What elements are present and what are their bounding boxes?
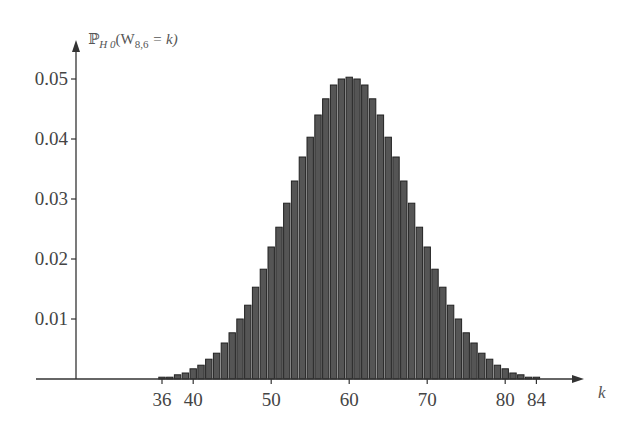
- bar: [416, 227, 422, 379]
- bar: [182, 373, 188, 379]
- bar: [190, 369, 196, 379]
- bar: [346, 77, 352, 379]
- bar: [447, 305, 453, 379]
- x-tick-label: 70: [418, 389, 437, 410]
- bar: [377, 115, 383, 379]
- y-tick-label: 0.02: [35, 248, 68, 269]
- bar: [268, 247, 274, 379]
- bar: [463, 333, 469, 379]
- bar: [393, 157, 399, 379]
- x-tick-label: 60: [340, 389, 359, 410]
- x-tick-label: 80: [496, 389, 515, 410]
- chart-container: 0.010.020.030.040.0536405060708084 ℙH 0(…: [0, 0, 634, 426]
- bar: [440, 287, 446, 379]
- bar: [354, 79, 360, 379]
- bar: [299, 157, 305, 379]
- x-axis-arrow-icon: [572, 375, 584, 383]
- bar: [401, 181, 407, 379]
- bar: [315, 115, 321, 379]
- bar: [284, 203, 290, 379]
- bar: [471, 343, 477, 379]
- x-tick-label: 84: [527, 389, 547, 410]
- x-tick-label: 50: [262, 389, 281, 410]
- bar: [385, 137, 391, 379]
- bar-chart: 0.010.020.030.040.0536405060708084: [0, 0, 634, 426]
- bar: [245, 305, 251, 379]
- bar: [276, 227, 282, 379]
- y-tick-label: 0.01: [35, 308, 68, 329]
- bar: [455, 319, 461, 379]
- bar: [206, 359, 212, 379]
- bar: [260, 269, 266, 379]
- bar: [252, 287, 258, 379]
- bar: [330, 85, 336, 379]
- bar: [510, 373, 516, 379]
- y-axis-label: ℙH 0(W8,6 = k): [88, 30, 178, 50]
- x-tick-label: 36: [153, 389, 172, 410]
- bar: [369, 99, 375, 379]
- bar: [362, 85, 368, 379]
- bar: [424, 247, 430, 379]
- bar: [479, 353, 485, 379]
- bar: [494, 365, 500, 379]
- bar: [291, 181, 297, 379]
- bar: [198, 365, 204, 379]
- bar: [338, 79, 344, 379]
- bar: [432, 269, 438, 379]
- y-tick-label: 0.03: [35, 188, 68, 209]
- bar: [486, 359, 492, 379]
- y-tick-label: 0.04: [35, 128, 69, 149]
- bar: [213, 353, 219, 379]
- y-tick-label: 0.05: [35, 68, 68, 89]
- bar: [229, 333, 235, 379]
- bar: [408, 203, 414, 379]
- bar: [221, 343, 227, 379]
- bar: [323, 99, 329, 379]
- y-axis-arrow-icon: [72, 40, 80, 52]
- x-tick-label: 40: [184, 389, 203, 410]
- bar: [237, 319, 243, 379]
- x-axis-label: k: [598, 383, 606, 403]
- bar: [307, 137, 313, 379]
- bar: [502, 369, 508, 379]
